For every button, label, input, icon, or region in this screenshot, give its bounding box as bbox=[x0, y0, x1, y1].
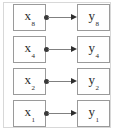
source-node-box[interactable]: x8 bbox=[13, 4, 46, 31]
target-node-box[interactable]: y4 bbox=[77, 36, 110, 63]
mapping-diagram: x8 y8 x4 y4 x2 bbox=[0, 0, 117, 132]
connector-line bbox=[48, 49, 73, 50]
source-node-box[interactable]: x4 bbox=[13, 36, 46, 63]
target-node-label: y4 bbox=[89, 41, 99, 58]
connector-arrow bbox=[44, 78, 79, 86]
connector-arrow bbox=[44, 110, 79, 118]
target-node-label: y1 bbox=[89, 105, 99, 122]
source-node-label: x8 bbox=[25, 9, 35, 26]
target-node-box[interactable]: y8 bbox=[77, 4, 110, 31]
connector-line bbox=[48, 113, 73, 114]
mapping-row: x4 y4 bbox=[0, 34, 117, 66]
target-node-label: y2 bbox=[89, 73, 99, 90]
connector-line bbox=[48, 81, 73, 82]
mapping-row: x2 y2 bbox=[0, 66, 117, 98]
connector-arrow bbox=[44, 46, 79, 54]
mapping-row: x8 y8 bbox=[0, 2, 117, 34]
mapping-row: x1 y1 bbox=[0, 98, 117, 130]
source-node-label: x4 bbox=[25, 41, 35, 58]
source-node-box[interactable]: x1 bbox=[13, 100, 46, 127]
connector-line bbox=[48, 17, 73, 18]
target-node-box[interactable]: y2 bbox=[77, 68, 110, 95]
target-node-box[interactable]: y1 bbox=[77, 100, 110, 127]
source-node-box[interactable]: x2 bbox=[13, 68, 46, 95]
source-node-label: x1 bbox=[25, 105, 35, 122]
source-node-label: x2 bbox=[25, 73, 35, 90]
target-node-label: y8 bbox=[89, 9, 99, 26]
connector-arrow bbox=[44, 14, 79, 22]
